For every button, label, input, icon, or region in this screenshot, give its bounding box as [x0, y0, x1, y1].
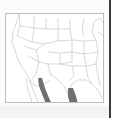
range-map[interactable]: [5, 13, 104, 103]
range-shading: [38, 78, 78, 103]
right-border-line: [109, 0, 111, 118]
state-borders: [12, 14, 104, 102]
eastern-range-area: [68, 88, 78, 103]
us-map-svg: [6, 14, 104, 103]
western-range-area: [38, 78, 52, 103]
bottom-band: [0, 106, 109, 118]
